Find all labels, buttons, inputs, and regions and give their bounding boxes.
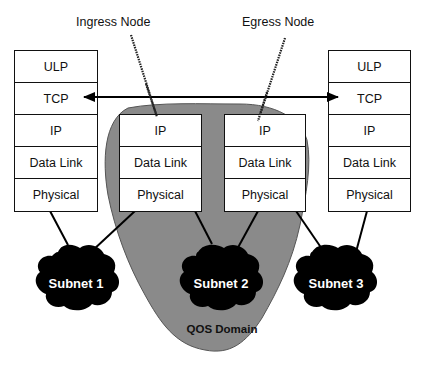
- subnet2-label: Subnet 2: [194, 276, 249, 291]
- ingress-layer-ip: IP: [120, 115, 201, 147]
- egress-layer-data-link: Data Link: [225, 147, 305, 179]
- left-host-stack: ULP TCP IP Data Link Physical: [14, 50, 98, 212]
- left-host-layer-ip: IP: [15, 115, 97, 147]
- left-host-layer-ulp: ULP: [15, 51, 97, 83]
- link-right-host-subnet3: [356, 211, 367, 252]
- left-host-layer-tcp: TCP: [15, 83, 97, 115]
- subnet1-label: Subnet 1: [49, 276, 104, 291]
- ingress-node-stack: IP Data Link Physical: [119, 114, 202, 212]
- qos-domain-label: QOS Domain: [187, 323, 258, 335]
- link-left-host-subnet1: [50, 211, 68, 245]
- ingress-leader-line: [131, 35, 157, 117]
- right-host-layer-ip: IP: [329, 115, 410, 147]
- egress-layer-physical: Physical: [225, 179, 305, 211]
- egress-node-label: Egress Node: [242, 15, 314, 29]
- link-egress-subnet3: [296, 211, 322, 249]
- subnet3-label: Subnet 3: [309, 276, 364, 291]
- right-host-layer-tcp: TCP: [329, 83, 410, 115]
- right-host-layer-ulp: ULP: [329, 51, 410, 83]
- right-host-stack: ULP TCP IP Data Link Physical: [328, 50, 411, 212]
- ingress-node-label: Ingress Node: [76, 15, 150, 29]
- left-host-layer-physical: Physical: [15, 179, 97, 211]
- qos-network-diagram: Ingress Node Egress Node ULP TCP IP Data…: [0, 0, 426, 389]
- ingress-layer-data-link: Data Link: [120, 147, 201, 179]
- right-host-layer-physical: Physical: [329, 179, 410, 211]
- egress-node-stack: IP Data Link Physical: [224, 114, 306, 212]
- ingress-layer-physical: Physical: [120, 179, 201, 211]
- right-host-layer-data-link: Data Link: [329, 147, 410, 179]
- egress-layer-ip: IP: [225, 115, 305, 147]
- left-host-layer-data-link: Data Link: [15, 147, 97, 179]
